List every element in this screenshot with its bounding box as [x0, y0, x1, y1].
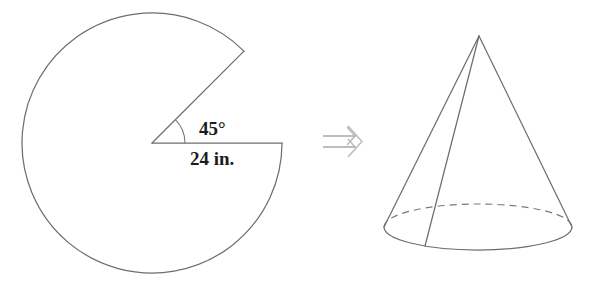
radius-label: 24 in.: [190, 148, 234, 169]
cone-seam-line: [425, 36, 479, 246]
implies-arrow-glyph: [323, 127, 355, 147]
implies-arrow-head: [323, 126, 362, 157]
angle-arc-indicator: [175, 120, 185, 143]
implies-arrow-icon: [323, 126, 362, 157]
cone-left-slant-edge: [384, 36, 479, 227]
cone-right-slant-edge: [479, 36, 572, 227]
cone-base-hidden-arc: [384, 204, 572, 227]
angle-label: 45°: [199, 118, 226, 139]
cone-group: [384, 36, 572, 250]
figure-canvas: 45° 24 in.: [0, 0, 599, 285]
sector-radius-upper: [152, 51, 244, 143]
geometry-figure: 45° 24 in.: [0, 0, 599, 285]
cone-base-visible-arc: [384, 227, 572, 250]
sector-group: 45° 24 in.: [22, 13, 282, 273]
